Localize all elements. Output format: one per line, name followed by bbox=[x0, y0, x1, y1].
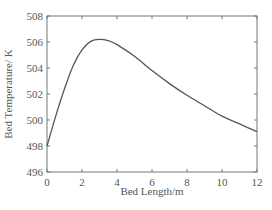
plot-border bbox=[47, 16, 257, 172]
y-tick-label: 508 bbox=[27, 10, 44, 22]
x-tick-label: 10 bbox=[217, 176, 229, 188]
axis-ticks bbox=[47, 16, 257, 172]
x-axis-label: Bed Length/m bbox=[120, 185, 184, 197]
x-tick-label: 0 bbox=[44, 176, 50, 188]
y-tick-label: 500 bbox=[27, 114, 44, 126]
plot-area bbox=[47, 16, 257, 172]
x-tick-label: 8 bbox=[184, 176, 190, 188]
y-axis-label: Bed Temperature/ K bbox=[2, 49, 14, 138]
line-chart: 024681012 496498500502504506508 Bed Leng… bbox=[0, 0, 272, 210]
y-tick-label: 502 bbox=[27, 88, 44, 100]
x-tick-label: 12 bbox=[252, 176, 263, 188]
y-tick-labels: 496498500502504506508 bbox=[27, 10, 44, 178]
x-tick-label: 4 bbox=[114, 176, 120, 188]
y-tick-label: 506 bbox=[27, 36, 44, 48]
bed-temperature-curve bbox=[47, 39, 257, 146]
y-tick-label: 504 bbox=[27, 62, 44, 74]
y-tick-label: 498 bbox=[27, 140, 44, 152]
x-tick-label: 2 bbox=[79, 176, 85, 188]
y-tick-label: 496 bbox=[27, 166, 44, 178]
